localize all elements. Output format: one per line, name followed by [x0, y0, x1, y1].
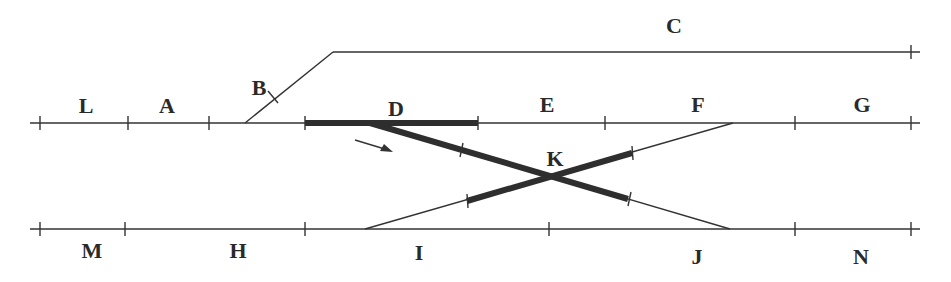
label-section-l: L: [79, 95, 94, 117]
label-section-a: A: [159, 95, 175, 117]
railway-track-diagram: L A B C D E F G K M H I J N: [0, 0, 951, 282]
label-section-f: F: [691, 94, 704, 116]
direction-arrow-icon: [355, 140, 393, 152]
label-section-h: H: [229, 240, 246, 262]
label-section-k: K: [546, 148, 563, 170]
section-ticks: [40, 45, 911, 236]
route-diagonal-down-highlight: [370, 123, 628, 199]
label-section-j: J: [692, 246, 703, 268]
label-section-m: M: [82, 240, 103, 262]
track-layout-graphic: [0, 0, 951, 282]
label-section-n: N: [853, 246, 869, 268]
label-section-d: D: [388, 98, 404, 120]
label-section-b: B: [252, 77, 267, 99]
label-section-i: I: [415, 242, 424, 264]
label-section-e: E: [540, 94, 555, 116]
label-section-c: C: [666, 15, 682, 37]
highlighted-route: [305, 123, 632, 201]
label-section-g: G: [853, 94, 870, 116]
thin-tracks: [30, 52, 920, 229]
